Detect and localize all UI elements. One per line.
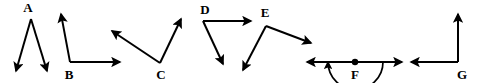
angle-c-ray-up-right [160,19,181,63]
angles-group: ABCDEFG [16,0,467,83]
angle-a-ray-down-right [31,19,47,71]
angle-g: G [411,14,467,82]
angles-svg-canvas: ABCDEFG [0,0,480,83]
angle-b-ray-up [61,14,70,62]
angle-b-label: B [65,67,74,82]
angle-d-label: D [200,2,209,17]
angle-f-label: F [351,67,359,82]
angle-c-label: C [156,67,165,82]
angle-d: D [200,2,251,64]
angle-d-ray-down-right [203,21,223,64]
angle-e-label: E [261,5,270,20]
angle-f: F [307,59,402,83]
angle-e-ray-down-right [266,26,311,43]
angle-f-vertex-dot [352,59,358,65]
angle-c: C [112,19,181,82]
angle-a-label: A [23,0,33,15]
angle-a: A [16,0,47,71]
angle-a-ray-down-left [16,19,31,71]
angle-g-label: G [457,67,467,82]
angle-c-ray-up-left [112,31,160,63]
angles-figure: ABCDEFG [0,0,480,83]
angle-e-ray-down-left [243,26,266,70]
angle-b: B [61,14,120,82]
angle-e: E [243,5,311,70]
